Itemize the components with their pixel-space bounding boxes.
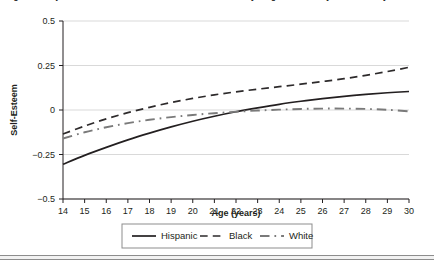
x-tick-label: 26: [317, 206, 327, 216]
data-series: [63, 67, 409, 164]
y-axis-title: Self-Esteem: [9, 84, 19, 136]
x-tick-label: 29: [382, 206, 392, 216]
x-tick-label: 28: [361, 206, 371, 216]
gridlines: [63, 21, 409, 199]
y-tick-label: 0.5: [42, 16, 55, 26]
x-tick-label: 14: [58, 206, 68, 216]
y-tick-label: −0.25: [32, 150, 55, 160]
x-tick-label: 24: [274, 206, 284, 216]
legend-label-hispanic: Hispanic: [161, 230, 198, 241]
x-axis-title: Age (years): [211, 208, 260, 218]
x-tick-label: 18: [144, 206, 154, 216]
x-tick-label: 20: [188, 206, 198, 216]
series-line-hispanic: [63, 91, 409, 164]
figure-container: Figure 2. Trajectories of self-esteem ac…: [0, 0, 434, 264]
x-tick-label: 25: [296, 206, 306, 216]
legend-label-white: White: [289, 230, 313, 241]
series-line-white: [63, 109, 409, 139]
legend-label-black: Black: [229, 230, 252, 241]
y-axis-tick-labels: 0.50.250−0.25−0.5: [32, 16, 55, 204]
legend: HispanicBlackWhite: [122, 224, 313, 248]
x-tick-label: 27: [339, 206, 349, 216]
series-line-black: [63, 67, 409, 134]
x-tick-label: 17: [123, 206, 133, 216]
x-tick-label: 16: [101, 206, 111, 216]
x-tick-label: 30: [404, 206, 414, 216]
x-tick-label: 15: [80, 206, 90, 216]
figure-bottom-rule: [0, 255, 434, 260]
y-tick-label: −0.5: [37, 194, 55, 204]
y-tick-label: 0: [50, 105, 55, 115]
x-tick-label: 19: [166, 206, 176, 216]
y-tick-label: 0.25: [37, 61, 55, 71]
self-esteem-line-chart: 0.50.250−0.25−0.5 1415161718192021222324…: [0, 0, 434, 255]
